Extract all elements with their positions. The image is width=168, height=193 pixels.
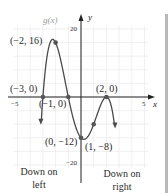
down-arrow-right-icon: [112, 123, 117, 129]
annotation-down-left: Down on left: [9, 166, 69, 191]
x-axis-label: x: [153, 100, 157, 109]
page-edge-divider: [165, 14, 168, 193]
x-tick-neg5: −5: [11, 101, 18, 108]
data-point: [91, 122, 96, 127]
data-point: [104, 95, 109, 100]
point-label-max: (−2, 16): [10, 36, 42, 46]
annotation-down-right: Down on right: [92, 168, 152, 193]
data-point: [66, 95, 71, 100]
point-label-root-neg1: (−1, 0): [39, 99, 66, 109]
function-label: g(x): [43, 16, 58, 25]
point-label-root-2: (2, 0): [96, 84, 118, 94]
y-axis-label: y: [88, 13, 92, 22]
data-point: [53, 40, 58, 45]
point-label-1-neg8: (1, −8): [85, 142, 112, 152]
y-axis: [79, 14, 84, 183]
end-arrows: [38, 119, 117, 129]
point-label-root-neg3: (−3, 0): [10, 84, 37, 94]
point-label-y-intercept: (0, −12): [45, 137, 77, 147]
y-axis-arrow-icon: [79, 14, 84, 21]
function-graph: [0, 0, 168, 193]
y-tick-20: 20: [70, 26, 77, 33]
x-tick-5: 5: [142, 101, 146, 108]
data-point: [79, 136, 84, 141]
